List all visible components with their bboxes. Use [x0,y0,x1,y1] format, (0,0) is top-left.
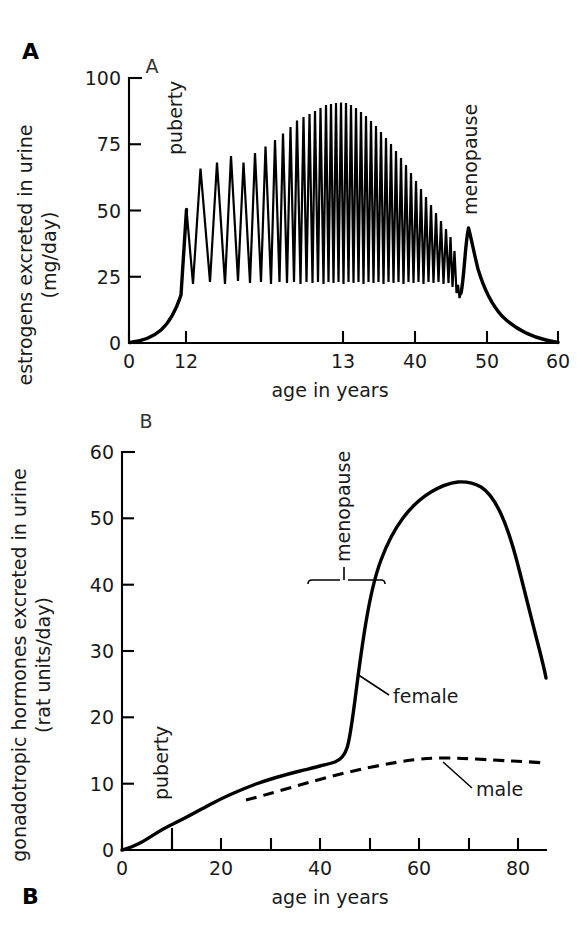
chart-a-x-ticks [129,331,558,343]
chart-b-annotation-menopause: menopause [332,451,354,562]
chart-a-xtick-12: 12 [174,350,198,372]
chart-b-xlabel: age in years [271,886,388,908]
chart-a-xtick-60: 60 [546,350,570,372]
chart-b-female-leader [357,674,389,695]
chart-a-ytick-0: 0 [109,332,121,354]
chart-b-ytick-30: 30 [90,640,114,662]
chart-a-xtick-40: 40 [403,350,427,372]
chart-b-svg: gonadotropic hormones excreted in urine … [0,410,577,910]
chart-b-ytick-10: 10 [90,773,114,795]
chart-a-ylabel-line1: estrogens excreted in urine [14,124,36,385]
chart-b-annotation-female: female [393,685,459,707]
chart-a-xlabel: age in years [271,379,388,401]
chart-a-ytick-50: 50 [97,200,121,222]
chart-a-xtick-13: 13 [331,350,355,372]
chart-b-xtick-40: 40 [308,857,332,879]
chart-b-ylabel-line2: (rat units/day) [32,597,54,733]
chart-a-corner-letter: A [146,55,159,77]
chart-b: gonadotropic hormones excreted in urine … [0,410,577,910]
chart-a-xtick-50: 50 [475,350,499,372]
chart-a-ytick-25: 25 [97,266,121,288]
chart-a-svg: estrogens excreted in urine (mg/day) A 0… [0,55,577,400]
figure-container: A B estrogens excreted in urine (mg/day)… [0,0,577,929]
chart-a: estrogens excreted in urine (mg/day) A 0… [0,55,577,400]
chart-b-ytick-20: 20 [90,706,114,728]
chart-b-ytick-40: 40 [90,574,114,596]
chart-b-ytick-50: 50 [90,507,114,529]
chart-a-ytick-75: 75 [97,133,121,155]
chart-a-xtick-0: 0 [123,350,135,372]
chart-a-y-ticks [129,144,141,343]
chart-a-ylabel-line2: (mg/day) [38,212,60,299]
chart-b-ylabel-line1: gonadotropic hormones excreted in urine [8,468,30,862]
chart-b-xtick-0: 0 [116,857,128,879]
chart-b-annotation-male: male [476,778,523,800]
chart-b-xtick-20: 20 [209,857,233,879]
chart-b-ytick-0: 0 [102,839,114,861]
chart-b-annotation-puberty: puberty [150,726,172,800]
chart-a-annotation-menopause: menopause [459,104,481,215]
chart-a-ytick-100: 100 [85,67,121,89]
chart-b-x-ticks [122,838,518,850]
chart-b-xtick-80: 80 [506,857,530,879]
chart-b-xtick-60: 60 [407,857,431,879]
chart-a-series-estrogens [130,103,558,343]
chart-b-male-leader [443,762,472,788]
chart-b-corner-letter: B [139,410,152,432]
chart-b-y-ticks [122,518,134,850]
chart-a-annotation-puberty: puberty [164,81,186,155]
chart-b-ytick-60: 60 [90,441,114,463]
